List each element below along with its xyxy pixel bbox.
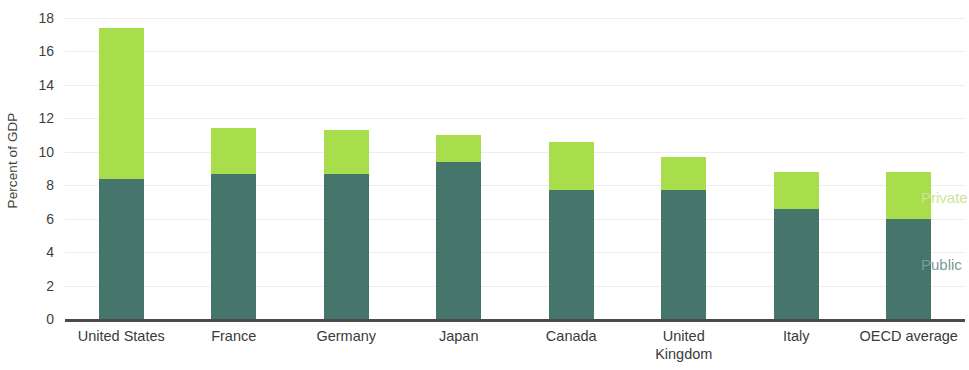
x-tick-label: France xyxy=(178,327,291,345)
bar-segment-private xyxy=(324,130,369,173)
plot-area xyxy=(65,18,965,319)
x-tick-label: Canada xyxy=(515,327,628,345)
stacked-bar xyxy=(436,135,481,319)
stacked-bar xyxy=(774,172,819,319)
bar-segment-public xyxy=(774,209,819,319)
x-tick-label: Japan xyxy=(403,327,516,345)
stacked-bar xyxy=(661,157,706,319)
bar-group xyxy=(324,18,369,319)
bar-segment-public xyxy=(99,179,144,319)
y-tick-label: 6 xyxy=(8,212,54,226)
x-tick-label: United States xyxy=(65,327,178,345)
bar-segment-private xyxy=(774,172,819,209)
legend-item-private: Private xyxy=(921,190,968,205)
x-tick-label: Italy xyxy=(740,327,853,345)
gridline xyxy=(65,152,965,153)
stacked-bar xyxy=(99,28,144,319)
y-tick-label: 16 xyxy=(8,44,54,58)
bar-group xyxy=(886,18,931,319)
gridline xyxy=(65,51,965,52)
y-tick-label: 8 xyxy=(8,178,54,192)
stacked-bar xyxy=(211,128,256,319)
y-tick-label: 12 xyxy=(8,111,54,125)
bar-group xyxy=(436,18,481,319)
x-tick-label: OECD average xyxy=(853,327,966,345)
gridline xyxy=(65,118,965,119)
bar-segment-private xyxy=(211,128,256,173)
bar-group xyxy=(211,18,256,319)
bar-group xyxy=(549,18,594,319)
stacked-bar xyxy=(549,142,594,319)
x-axis-line xyxy=(65,319,965,322)
y-tick-label: 14 xyxy=(8,78,54,92)
gridline xyxy=(65,286,965,287)
gridline xyxy=(65,18,965,19)
bar-segment-public xyxy=(436,162,481,319)
bar-group xyxy=(99,18,144,319)
y-tick-label: 10 xyxy=(8,145,54,159)
bar-segment-private xyxy=(661,157,706,190)
x-tick-label: Germany xyxy=(290,327,403,345)
bar-segment-public xyxy=(211,174,256,319)
gridline xyxy=(65,252,965,253)
legend-item-public: Public xyxy=(921,257,962,272)
y-axis-title: Percent of GDP xyxy=(0,0,26,320)
gridline xyxy=(65,219,965,220)
y-axis-tick-labels: 181614121086420 xyxy=(0,0,54,370)
bar-group xyxy=(774,18,819,319)
bar-segment-private xyxy=(436,135,481,162)
stacked-bar-chart: Percent of GDP 181614121086420 United St… xyxy=(0,0,969,370)
x-tick-label: United Kingdom xyxy=(628,327,741,363)
y-axis-title-text: Percent of GDP xyxy=(6,112,21,208)
bar-segment-private xyxy=(99,28,144,179)
bar-segment-public xyxy=(661,190,706,319)
y-tick-label: 2 xyxy=(8,279,54,293)
bar-segment-public xyxy=(324,174,369,319)
y-tick-label: 4 xyxy=(8,245,54,259)
bar-segment-private xyxy=(549,142,594,190)
y-tick-label: 0 xyxy=(8,312,54,326)
stacked-bar xyxy=(324,130,369,319)
gridline xyxy=(65,85,965,86)
bar-segment-public xyxy=(549,190,594,319)
y-tick-label: 18 xyxy=(8,11,54,25)
bar-group xyxy=(661,18,706,319)
gridline xyxy=(65,185,965,186)
